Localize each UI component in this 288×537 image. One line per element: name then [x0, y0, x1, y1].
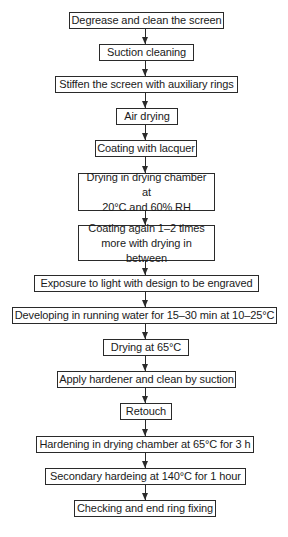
arrow-down-icon	[145, 388, 146, 403]
step-retouch: Retouch	[120, 403, 172, 420]
step-label: Secondary hardeing at 140°C for 1 hour	[50, 470, 241, 483]
step-drying-65c: Drying at 65°C	[103, 339, 189, 356]
step-label: Degrease and clean the screen	[72, 14, 222, 27]
step-checking-ring-fixing: Checking and end ring fixing	[74, 500, 216, 517]
arrow-down-icon	[145, 29, 146, 44]
step-coating-again: Coating again 1–2 times more with drying…	[78, 225, 215, 261]
arrow-down-icon	[145, 485, 146, 500]
arrow-down-icon	[145, 292, 146, 307]
step-label: Retouch	[126, 405, 166, 418]
arrow-down-icon	[145, 61, 146, 76]
arrow-down-icon	[145, 93, 146, 108]
step-label: Air drying	[124, 110, 169, 123]
arrow-down-icon	[145, 453, 146, 468]
step-hardening-chamber: Hardening in drying chamber at 65°C for …	[36, 436, 254, 453]
arrow-down-icon	[145, 420, 146, 436]
arrow-down-icon	[145, 261, 146, 275]
step-label-line2: more with drying in between	[82, 236, 211, 266]
step-label: Stiffen the screen with auxiliary rings	[59, 78, 233, 91]
step-label: Drying at 65°C	[111, 341, 181, 354]
step-label: Hardening in drying chamber at 65°C for …	[39, 438, 250, 451]
step-drying-chamber: Drying in drying chamber at 20°C and 60%…	[78, 173, 215, 211]
step-label: Apply hardener and clean by suction	[59, 373, 233, 386]
step-label: Suction cleaning	[107, 46, 186, 59]
step-exposure-light: Exposure to light with design to be engr…	[34, 275, 259, 292]
step-label: Exposure to light with design to be engr…	[40, 277, 252, 290]
arrow-down-icon	[145, 356, 146, 371]
step-developing-water: Developing in running water for 15–30 mi…	[12, 307, 277, 324]
process-flowchart: Degrease and clean the screen Suction cl…	[0, 0, 288, 537]
step-label-line1: Coating again 1–2 times	[88, 221, 204, 236]
step-suction-cleaning: Suction cleaning	[99, 44, 194, 61]
step-label: Coating with lacquer	[97, 142, 195, 155]
arrow-down-icon	[145, 125, 146, 140]
arrow-down-icon	[145, 324, 146, 339]
step-label: Developing in running water for 15–30 mi…	[15, 309, 275, 322]
step-degrease-clean: Degrease and clean the screen	[69, 12, 224, 29]
step-label-line2: 20°C and 60% RH	[102, 200, 191, 215]
step-air-drying: Air drying	[116, 108, 178, 125]
step-label-line1: Drying in drying chamber at	[82, 170, 211, 200]
step-coating-lacquer: Coating with lacquer	[95, 140, 197, 157]
step-stiffen-screen: Stiffen the screen with auxiliary rings	[55, 76, 238, 93]
step-apply-hardener: Apply hardener and clean by suction	[57, 371, 236, 388]
step-secondary-hardening: Secondary hardeing at 140°C for 1 hour	[45, 468, 246, 485]
step-label: Checking and end ring fixing	[77, 502, 213, 515]
